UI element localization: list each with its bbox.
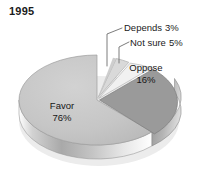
- slice-callout-depends-value: 3%: [165, 22, 179, 33]
- slice-label-favor-value: 76%: [38, 112, 86, 124]
- slice-label-oppose-name: Oppose: [122, 62, 170, 74]
- slice-callout-not-sure-value: 5%: [169, 37, 183, 48]
- slice-label-oppose-value: 16%: [122, 74, 170, 86]
- slice-callout-not-sure-name: Not sure: [130, 37, 166, 48]
- slice-callout-not-sure: Not sure5%: [130, 37, 183, 48]
- slice-label-favor-name: Favor: [38, 100, 86, 112]
- slice-callout-depends-name: Depends: [124, 22, 162, 33]
- slice-callout-depends: Depends3%: [124, 22, 179, 33]
- slice-label-favor: Favor 76%: [38, 100, 86, 123]
- slice-label-oppose: Oppose 16%: [122, 62, 170, 85]
- pie-chart-figure: 1995: [0, 0, 208, 170]
